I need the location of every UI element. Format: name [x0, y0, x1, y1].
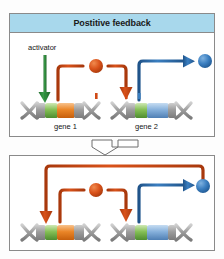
activator-label: activator	[28, 43, 56, 52]
panel-connector-chevron-icon	[92, 140, 138, 155]
panel-title: Postitive feedback	[10, 14, 214, 33]
diagram-root: Postitive feedback activator gene 1 gene…	[0, 0, 224, 259]
panel-feedback-loop	[9, 155, 215, 251]
panel-positive-feedback: Postitive feedback	[9, 13, 215, 137]
gene1-label: gene 1	[54, 122, 77, 131]
gene2-label: gene 2	[135, 122, 158, 131]
